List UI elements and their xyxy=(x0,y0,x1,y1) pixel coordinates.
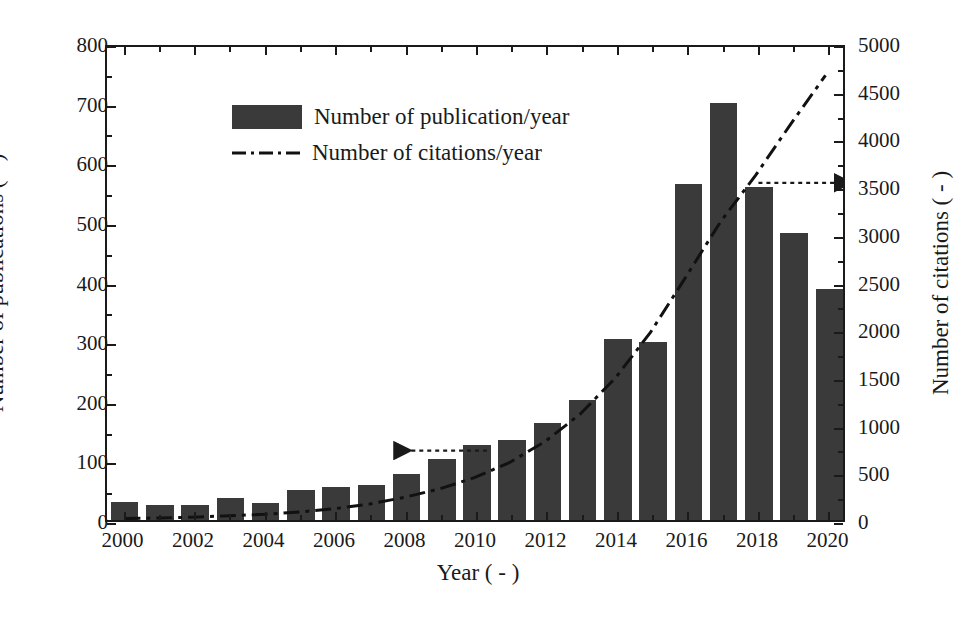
ytick-label-right-2000: 2000 xyxy=(858,319,900,344)
x-axis-title: Year ( - ) xyxy=(437,560,520,586)
xtick-label-2014: 2014 xyxy=(595,528,637,553)
ytick-label-right-3000: 3000 xyxy=(858,223,900,248)
legend-swatch-publications xyxy=(232,105,302,129)
ytick-left-100 xyxy=(107,463,116,465)
xtick-top-2006 xyxy=(335,47,337,55)
ytick-right-750 xyxy=(838,451,843,453)
xtick-2017 xyxy=(723,515,725,520)
xtick-2004 xyxy=(265,512,267,520)
ytick-left-600 xyxy=(107,165,116,167)
xtick-2015 xyxy=(652,515,654,520)
ytick-left-50 xyxy=(107,493,112,495)
ytick-right-0 xyxy=(834,523,843,525)
legend-line-citations xyxy=(232,141,302,165)
legend-item-citations: Number of citations/year xyxy=(232,135,569,171)
xtick-2001 xyxy=(159,515,161,520)
legend-label-citations: Number of citations/year xyxy=(312,140,542,166)
xtick-top-2014 xyxy=(617,47,619,55)
ytick-label-left-500: 500 xyxy=(0,211,108,236)
xtick-2003 xyxy=(229,515,231,520)
ytick-left-250 xyxy=(107,374,112,376)
xtick-label-2002: 2002 xyxy=(172,528,214,553)
publication-citation-chart: Number of publications ( - ) Number of c… xyxy=(0,0,957,622)
ytick-left-150 xyxy=(107,434,112,436)
xtick-top-2001 xyxy=(159,47,161,52)
xtick-2009 xyxy=(441,515,443,520)
xtick-2000 xyxy=(124,512,126,520)
ytick-right-3250 xyxy=(838,213,843,215)
ytick-label-left-700: 700 xyxy=(0,92,108,117)
ytick-left-450 xyxy=(107,255,112,257)
ytick-right-2750 xyxy=(838,261,843,263)
xtick-label-2010: 2010 xyxy=(454,528,496,553)
ytick-left-400 xyxy=(107,285,116,287)
xtick-top-2008 xyxy=(406,47,408,55)
xtick-top-2011 xyxy=(511,47,513,52)
xtick-2005 xyxy=(300,515,302,520)
xtick-top-2012 xyxy=(546,47,548,55)
chart-legend: Number of publication/year Number of cit… xyxy=(232,99,569,171)
ytick-label-left-100: 100 xyxy=(0,450,108,475)
xtick-top-2017 xyxy=(723,47,725,52)
ytick-right-1000 xyxy=(834,428,843,430)
ytick-right-3500 xyxy=(834,189,843,191)
xtick-top-2018 xyxy=(758,47,760,55)
ytick-label-right-0: 0 xyxy=(858,510,869,535)
ytick-label-right-1500: 1500 xyxy=(858,366,900,391)
xtick-2016 xyxy=(687,512,689,520)
xtick-2010 xyxy=(476,512,478,520)
ytick-left-300 xyxy=(107,344,116,346)
ytick-right-4250 xyxy=(838,118,843,120)
xtick-2007 xyxy=(370,515,372,520)
xtick-label-2000: 2000 xyxy=(102,528,144,553)
ytick-label-left-800: 800 xyxy=(0,33,108,58)
legend-item-publications: Number of publication/year xyxy=(232,99,569,135)
legend-label-publications: Number of publication/year xyxy=(314,104,569,130)
ytick-right-4750 xyxy=(838,70,843,72)
xtick-2008 xyxy=(406,512,408,520)
xtick-2018 xyxy=(758,512,760,520)
xtick-top-2019 xyxy=(793,47,795,52)
ytick-left-750 xyxy=(107,76,112,78)
xtick-top-2002 xyxy=(194,47,196,55)
xtick-2002 xyxy=(194,512,196,520)
ytick-right-5000 xyxy=(834,46,843,48)
ytick-left-350 xyxy=(107,314,112,316)
ytick-left-650 xyxy=(107,135,112,137)
ytick-right-2000 xyxy=(834,332,843,334)
ytick-right-4000 xyxy=(834,141,843,143)
xtick-top-2005 xyxy=(300,47,302,52)
xtick-top-2016 xyxy=(687,47,689,55)
y-axis-right-title: Number of citations ( - ) xyxy=(928,171,954,395)
ytick-label-left-600: 600 xyxy=(0,152,108,177)
ytick-left-800 xyxy=(107,46,116,48)
ytick-right-500 xyxy=(834,475,843,477)
xtick-top-2010 xyxy=(476,47,478,55)
ytick-label-left-400: 400 xyxy=(0,271,108,296)
ytick-right-2250 xyxy=(838,308,843,310)
ytick-label-left-0: 0 xyxy=(0,510,108,535)
ytick-left-200 xyxy=(107,404,116,406)
xtick-top-2000 xyxy=(124,47,126,55)
ytick-left-500 xyxy=(107,225,116,227)
xtick-2014 xyxy=(617,512,619,520)
xtick-2012 xyxy=(546,512,548,520)
xtick-label-2012: 2012 xyxy=(524,528,566,553)
ytick-right-2500 xyxy=(834,285,843,287)
xtick-label-2020: 2020 xyxy=(806,528,848,553)
ytick-label-left-300: 300 xyxy=(0,331,108,356)
ytick-left-0 xyxy=(107,523,116,525)
ytick-label-right-2500: 2500 xyxy=(858,271,900,296)
xtick-2011 xyxy=(511,515,513,520)
ytick-left-550 xyxy=(107,195,112,197)
ytick-label-right-500: 500 xyxy=(858,462,890,487)
plot-area: Number of publication/year Number of cit… xyxy=(105,45,845,522)
ytick-right-1250 xyxy=(838,404,843,406)
xtick-top-2004 xyxy=(265,47,267,55)
xtick-top-2009 xyxy=(441,47,443,52)
xtick-2019 xyxy=(793,515,795,520)
xtick-top-2020 xyxy=(828,47,830,55)
xtick-top-2013 xyxy=(582,47,584,52)
ytick-right-3000 xyxy=(834,237,843,239)
ytick-right-250 xyxy=(838,499,843,501)
